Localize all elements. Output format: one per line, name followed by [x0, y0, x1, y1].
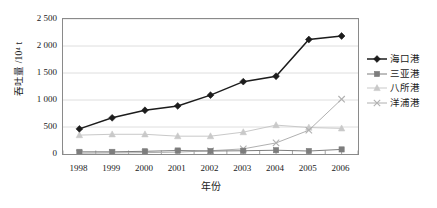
legend-item[interactable]: 海口港 [366, 52, 437, 67]
data-point-square [142, 149, 147, 154]
legend-item[interactable]: 洋浦港 [366, 96, 437, 111]
data-point-triangle [273, 122, 279, 128]
legend-symbol-svg [366, 67, 388, 81]
chart-legend: 海口港三亚港八所港洋浦港 [366, 52, 437, 110]
data-point-square [241, 148, 246, 153]
diamond-marker [174, 103, 181, 110]
data-point-square [77, 149, 82, 154]
square-marker [273, 148, 278, 153]
legend-square-icon [366, 67, 388, 81]
legend-cross-icon [366, 96, 388, 110]
data-point-square [208, 148, 213, 153]
diamond-marker [374, 56, 381, 63]
data-point-diamond [240, 78, 247, 85]
data-point-diamond [76, 125, 83, 132]
y-axis-tick-label: 2 000 [11, 41, 57, 50]
data-point-diamond [142, 107, 149, 114]
legend-label: 三亚港 [388, 69, 421, 79]
data-point-diamond [207, 92, 214, 99]
diamond-marker [207, 92, 214, 99]
square-marker [208, 148, 213, 153]
data-point-square [374, 71, 379, 76]
throughput-line-chart: 吞吐量 /10⁴ t 05001 0001 5002 0002 500 1998… [0, 0, 437, 208]
x-axis-title: 年份 [56, 178, 366, 193]
data-point-square [339, 147, 344, 152]
series-line [79, 99, 341, 153]
diamond-marker [109, 114, 116, 121]
legend-item[interactable]: 三亚港 [366, 67, 437, 82]
data-point-cross [338, 96, 344, 102]
plot-svg [63, 19, 358, 154]
triangle-marker [273, 122, 279, 128]
data-point-diamond [109, 114, 116, 121]
diamond-marker [240, 78, 247, 85]
legend-diamond-icon [366, 52, 388, 66]
data-point-diamond [174, 103, 181, 110]
y-axis-tick-label: 1 000 [11, 95, 57, 104]
x-axis-title-text: 年份 [201, 181, 222, 192]
y-axis-tick-label: 1 500 [11, 68, 57, 77]
data-point-diamond [374, 56, 381, 63]
series-2 [76, 122, 345, 139]
legend-symbol-svg [366, 81, 388, 95]
square-marker [142, 149, 147, 154]
x-axis-tick-label: 2006 [319, 163, 363, 173]
data-point-square [110, 149, 115, 154]
series-line [79, 36, 341, 129]
diamond-marker [76, 125, 83, 132]
square-marker [339, 147, 344, 152]
plot-area [62, 18, 359, 155]
y-axis-tick-label: 500 [11, 122, 57, 131]
square-marker [77, 149, 82, 154]
square-marker [110, 149, 115, 154]
square-marker [306, 148, 311, 153]
y-axis-tick-label: 2 500 [11, 14, 57, 23]
diamond-marker [338, 33, 345, 40]
diamond-marker [142, 107, 149, 114]
legend-item[interactable]: 八所港 [366, 81, 437, 96]
square-marker [175, 148, 180, 153]
legend-label: 八所港 [388, 83, 421, 93]
legend-label: 海口港 [388, 54, 421, 64]
data-point-square [175, 148, 180, 153]
series-3 [76, 96, 345, 154]
series-0 [76, 33, 345, 133]
data-point-diamond [338, 33, 345, 40]
data-point-square [273, 148, 278, 153]
data-point-square [306, 148, 311, 153]
legend-label: 洋浦港 [388, 98, 421, 108]
x-axis-tick-labels: 199819992000200120022003200420052006 [0, 163, 437, 179]
legend-symbol-svg [366, 52, 388, 66]
legend-triangle-icon [366, 81, 388, 95]
legend-symbol-svg [366, 96, 388, 110]
square-marker [241, 148, 246, 153]
y-axis-tick-label: 0 [11, 149, 57, 158]
square-marker [374, 71, 379, 76]
